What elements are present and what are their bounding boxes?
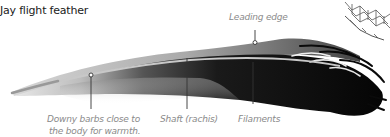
diagram-title: Jay flight feather bbox=[0, 4, 88, 17]
label-downy-barbs-line1: Downy barbs close to bbox=[47, 113, 140, 125]
barbule-inset-sketch bbox=[345, 2, 390, 40]
label-leading-edge: Leading edge bbox=[229, 11, 288, 23]
label-shaft: Shaft (rachis) bbox=[160, 113, 218, 125]
label-filaments: Filaments bbox=[238, 113, 280, 125]
label-downy-barbs: Downy barbs close to the body for warmth… bbox=[47, 113, 140, 137]
label-downy-barbs-line2: the body for warmth. bbox=[47, 125, 140, 137]
